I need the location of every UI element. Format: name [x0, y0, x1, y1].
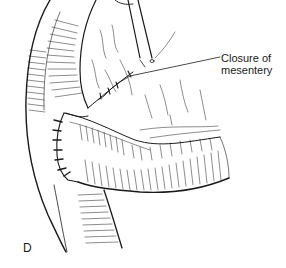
bowel-anastomosis-illustration [0, 0, 286, 268]
bowel-ribbing-lower [78, 194, 118, 243]
horizontal-bowel-ribbing [80, 125, 221, 190]
mesentery-texture [92, 25, 220, 138]
tube-right-edge [138, 0, 152, 58]
callout-leader-line [130, 57, 220, 76]
callout-line-1: Closure of [221, 52, 272, 64]
callout-line-2: mesentery [221, 64, 272, 76]
vertical-bowel-inner-wall [80, 0, 96, 108]
horizontal-bowel-bottom-edge [78, 178, 229, 192]
panel-letter: D [23, 241, 32, 255]
horizontal-bowel-top-edge [64, 113, 220, 144]
tube-left-edge [128, 0, 140, 58]
callout-closure-of-mesentery: Closure of mesentery [221, 52, 272, 76]
anastomosis-staples [53, 120, 70, 176]
